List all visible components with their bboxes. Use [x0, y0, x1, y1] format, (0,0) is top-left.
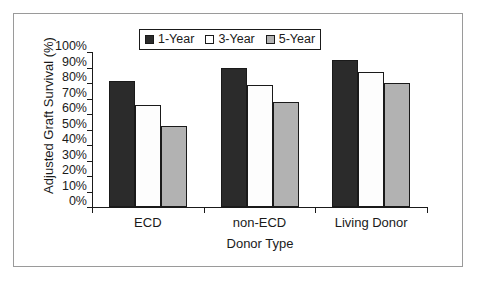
legend-label: 5-Year — [279, 33, 315, 46]
bar-non-ecd-3-year — [247, 85, 273, 207]
bar-non-ecd-5-year — [273, 102, 299, 207]
x-axis-tick-label: ECD — [92, 215, 204, 230]
chart-legend: 1-Year 3-Year 5-Year — [139, 29, 321, 50]
x-axis-tick-mark — [315, 207, 316, 213]
x-axis-line — [92, 207, 428, 208]
legend-label: 3-Year — [218, 33, 254, 46]
y-axis-tick-label: 60% — [47, 102, 87, 114]
legend-swatch-1-year — [145, 35, 154, 44]
chart-figure: Adjusted Graft Survival (%) 100%90%80%70… — [0, 0, 477, 284]
legend-swatch-3-year — [205, 35, 214, 44]
y-axis-tick-label: 70% — [47, 87, 87, 99]
x-axis-tick-label: non-ECD — [204, 215, 316, 230]
y-axis-tick-label: 80% — [47, 71, 87, 83]
bar-ecd-5-year — [161, 126, 187, 207]
y-axis-tick-label: 10% — [47, 180, 87, 192]
y-axis-tick-label: 30% — [47, 149, 87, 161]
x-axis-title: Donor Type — [92, 236, 428, 251]
plot-area — [92, 52, 427, 207]
legend-swatch-5-year — [266, 35, 275, 44]
y-axis-tick-label: 90% — [47, 56, 87, 68]
bar-ecd-3-year — [135, 105, 161, 207]
x-axis-tick-mark — [204, 207, 205, 213]
y-axis-tick-label: 20% — [47, 164, 87, 176]
bar-living-donor-5-year — [384, 83, 410, 207]
x-axis-tick-label: Living Donor — [315, 215, 427, 230]
x-axis-tick-mark — [92, 207, 93, 213]
bar-ecd-1-year — [109, 81, 135, 207]
legend-label: 1-Year — [158, 33, 194, 46]
bar-non-ecd-1-year — [221, 68, 247, 208]
y-axis-tick-label: 0% — [47, 195, 87, 207]
bar-living-donor-3-year — [358, 72, 384, 207]
bar-living-donor-1-year — [332, 60, 358, 207]
legend-item: 5-Year — [266, 33, 315, 46]
y-axis-tick-labels: 100%90%80%70%60%50%40%30%20%10%0% — [47, 46, 87, 213]
legend-item: 3-Year — [205, 33, 254, 46]
y-axis-tick-label: 50% — [47, 118, 87, 130]
x-axis-tick-mark — [427, 207, 428, 213]
legend-item: 1-Year — [145, 33, 194, 46]
y-axis-tick-label: 40% — [47, 133, 87, 145]
y-axis-tick-label: 100% — [47, 40, 87, 52]
